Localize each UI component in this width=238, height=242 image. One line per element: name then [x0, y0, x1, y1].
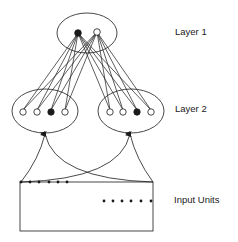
arrow-input-right-to-group2 — [130, 134, 153, 182]
connection-line — [23, 32, 97, 110]
layer1-ellipse — [57, 13, 117, 53]
layer1-label: Layer 1 — [175, 27, 207, 37]
input-unit-dot — [112, 200, 115, 203]
input-units-label: Input Units — [174, 195, 219, 205]
input-unit-dot — [130, 200, 133, 203]
input-unit-dot — [103, 200, 106, 203]
input-unit-dot — [48, 181, 51, 184]
connection-line — [78, 33, 137, 110]
connection-line — [65, 32, 97, 110]
arrow-input-left-to-group1 — [21, 134, 45, 182]
input-units-box — [20, 181, 153, 231]
inactive-unit-node — [120, 109, 126, 115]
arrow-input-right-to-group1 — [45, 134, 153, 182]
input-units-rect — [20, 182, 153, 231]
input-unit-dot — [140, 200, 143, 203]
inactive-unit-node — [34, 109, 40, 115]
connection-line — [78, 33, 110, 110]
input-unit-dot — [57, 181, 60, 184]
inactive-unit-node — [94, 29, 101, 36]
inactive-unit-node — [107, 109, 113, 115]
input-unit-dot — [121, 200, 124, 203]
active-unit-node — [48, 109, 54, 115]
inactive-unit-node — [62, 109, 68, 115]
connection-line — [78, 33, 151, 110]
connection-line — [97, 32, 123, 110]
input-unit-dot — [66, 181, 69, 184]
layer2-label: Layer 2 — [175, 104, 207, 114]
input-unit-dot — [150, 200, 153, 203]
layer1-to-layer2-connections — [23, 32, 151, 110]
layer1-ellipse — [57, 13, 117, 53]
connection-line — [97, 32, 137, 110]
active-unit-node — [134, 109, 140, 115]
input-to-layer2-arrows — [21, 134, 153, 182]
active-unit-node — [75, 30, 82, 37]
arrow-input-left-to-group2 — [21, 134, 130, 182]
inactive-unit-node — [20, 109, 26, 115]
layer2-group-2 — [98, 89, 164, 133]
inactive-unit-node — [148, 109, 154, 115]
